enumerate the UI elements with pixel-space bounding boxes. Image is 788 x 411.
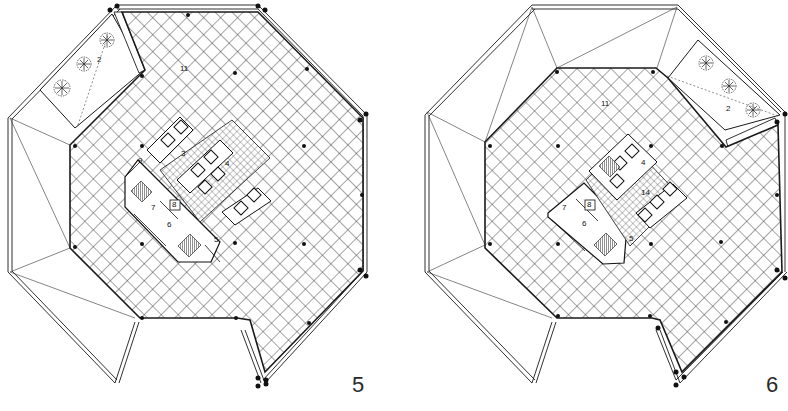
plan-5 bbox=[8, 4, 369, 389]
plan-6-room-label-6: 6 bbox=[582, 220, 586, 228]
plan-5-room-label-4: 4 bbox=[225, 160, 229, 168]
plan-6-room-label-7: 7 bbox=[562, 204, 566, 212]
plan-6-room-label-5: 5 bbox=[629, 235, 633, 243]
plan-6-room-label-11: 11 bbox=[601, 100, 609, 108]
plan-5-room-label-11: 11 bbox=[180, 65, 188, 73]
plan-5-room-label-8: 8 bbox=[172, 201, 176, 209]
floor-plans-drawing bbox=[0, 0, 788, 411]
plan-5-room-label-6: 6 bbox=[167, 221, 171, 229]
plan-6-room-label-4: 4 bbox=[641, 159, 645, 167]
plan-6-room-label-8: 8 bbox=[587, 201, 591, 209]
plan-6-room-label-14: 14 bbox=[641, 189, 650, 197]
floor-plans-sheet: 2 11 3 4 9 7 8 6 5 2 11 4 14 7 8 6 5 5 6 bbox=[0, 0, 788, 411]
plan-5-room-label-5: 5 bbox=[214, 236, 218, 244]
plan-5-room-label-9: 9 bbox=[138, 157, 142, 165]
plan-6-room-label-2: 2 bbox=[726, 105, 730, 113]
plan-6 bbox=[425, 5, 788, 388]
plan-5-room-label-3: 3 bbox=[181, 150, 185, 158]
plan-5-room-label-7: 7 bbox=[151, 204, 155, 212]
plan-6-number: 6 bbox=[766, 372, 778, 398]
plan-5-number: 5 bbox=[352, 372, 364, 398]
plan-5-room-label-2: 2 bbox=[97, 56, 101, 64]
